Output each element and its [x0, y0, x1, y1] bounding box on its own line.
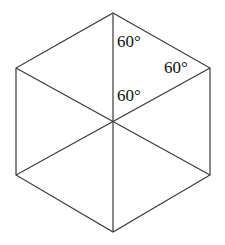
angle-label-center: 60° — [117, 87, 141, 104]
angle-label-top: 60° — [117, 33, 141, 50]
geometry-figure-canvas: 60° 60° 60° — [0, 0, 225, 245]
angle-label-right: 60° — [164, 59, 188, 76]
hexagon-diagram — [0, 0, 225, 245]
